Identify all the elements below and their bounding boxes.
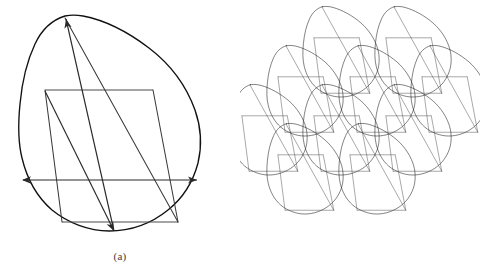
tile	[267, 123, 343, 214]
convex-region-diagram	[0, 0, 240, 279]
panel-a: (a)	[0, 0, 240, 279]
parallelogram-left-edge	[45, 90, 62, 222]
panel-b: (b)	[240, 0, 480, 279]
tile	[267, 45, 343, 136]
tile	[375, 84, 451, 175]
figure-container: (a)	[0, 0, 480, 279]
parallelogram-right-edge	[153, 90, 178, 222]
apex-arrow	[66, 19, 114, 231]
tile	[375, 6, 451, 97]
lattice-tiling	[240, 6, 480, 214]
tile	[339, 123, 415, 214]
panel-a-caption: (a)	[0, 250, 240, 262]
tile	[240, 84, 307, 175]
tiling-diagram	[240, 0, 480, 279]
tile	[303, 84, 379, 175]
tile	[339, 45, 415, 136]
base-arrow	[45, 91, 114, 231]
tile	[411, 45, 480, 136]
chord-apex-to-right-base	[65, 18, 178, 222]
inscribed-parallelogram	[45, 90, 178, 222]
tile	[303, 6, 379, 97]
